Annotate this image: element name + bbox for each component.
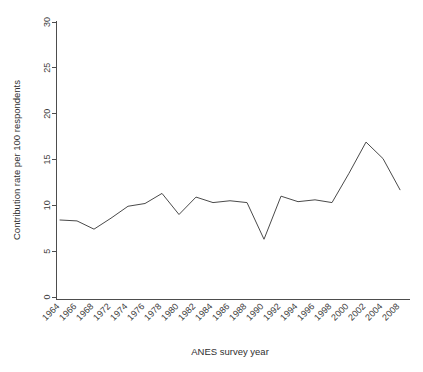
y-tick-label: 30 (42, 17, 52, 27)
x-tick-label: 1964 (40, 301, 61, 322)
x-tick-label: 2004 (363, 301, 384, 322)
x-axis-tick-labels: 1964196619681972197419761978198019821984… (40, 301, 401, 322)
data-series-line (60, 142, 400, 239)
x-tick-label: 2000 (329, 301, 350, 322)
x-tick-label: 1982 (176, 301, 197, 322)
x-tick-label: 2002 (346, 301, 367, 322)
x-tick-label: 1986 (210, 301, 231, 322)
x-tick-label: 1988 (227, 301, 248, 322)
x-axis-title: ANES survey year (191, 346, 269, 357)
x-tick-label: 1998 (312, 301, 333, 322)
x-tick-label: 1992 (261, 301, 282, 322)
x-tick-label: 1994 (278, 301, 299, 322)
x-tick-label: 1984 (193, 301, 214, 322)
y-tick-label: 15 (42, 154, 52, 164)
x-tick-label: 1978 (142, 301, 163, 322)
y-tick-label: 20 (42, 109, 52, 119)
y-tick-label: 5 (42, 249, 52, 254)
chart-axes (56, 21, 410, 299)
x-tick-label: 1976 (125, 301, 146, 322)
y-tick-label: 25 (42, 63, 52, 73)
y-axis-tick-labels: 051015202530 (42, 17, 52, 300)
x-tick-label: 1966 (57, 301, 78, 322)
x-tick-label: 1990 (244, 301, 265, 322)
y-tick-label: 10 (42, 200, 52, 210)
x-tick-label: 1974 (108, 301, 129, 322)
chart-figure: 051015202530 196419661968197219741976197… (0, 0, 423, 372)
y-axis-ticks (52, 22, 56, 297)
x-tick-label: 1996 (295, 301, 316, 322)
x-tick-label: 2008 (380, 301, 401, 322)
y-tick-label: 0 (42, 294, 52, 299)
x-tick-label: 1972 (91, 301, 112, 322)
line-chart: 051015202530 196419661968197219741976197… (0, 0, 423, 372)
y-axis-title: Contribution rate per 100 respondents (11, 80, 22, 240)
x-tick-label: 1968 (74, 301, 95, 322)
x-tick-label: 1980 (159, 301, 180, 322)
